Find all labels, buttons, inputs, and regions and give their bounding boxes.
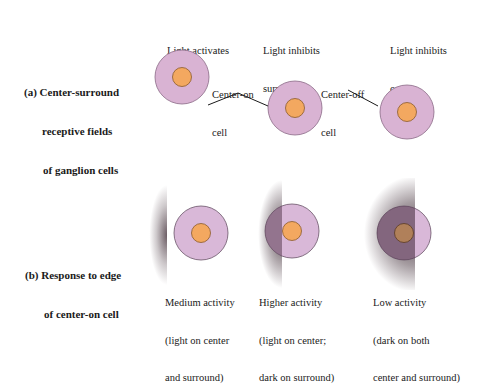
caption-medium-line3: and surround) [165,372,235,385]
caption-higher-activity: Higher activity (light on center; dark o… [259,272,334,388]
edge-response-medium [174,206,228,260]
caption-low-activity: Low activity (dark on both center and su… [373,272,460,388]
center-on-cell-label: Center-on cell [212,64,254,152]
caption-medium-line2: (light on center [165,335,235,348]
edge-response-low [377,206,431,260]
center-off-cell-label: Center-off cell [321,64,364,152]
caption-low-line1: Low activity [373,297,460,310]
caption-higher-line3: dark on surround) [259,372,334,385]
caption-higher-line1: Higher activity [259,297,334,310]
center-on-label-line1: Center-on [212,89,254,102]
caption-low-line2: (dark on both [373,335,460,348]
caption-medium-activity: Medium activity (light on center and sur… [165,272,235,388]
caption-medium-line1: Medium activity [165,297,235,310]
caption-higher-line2: (light on center; [259,335,334,348]
center-on-label-line2: cell [212,127,254,140]
center-off-label-line2: cell [321,127,364,140]
edge-response-higher [265,204,319,258]
center-off-cell-receptive-field [380,85,434,139]
caption-low-line3: center and surround) [373,372,460,385]
center-on-cell-receptive-field [155,50,209,104]
center-off-label-line1: Center-off [321,89,364,102]
light-inhibits-surround-field [268,81,322,135]
